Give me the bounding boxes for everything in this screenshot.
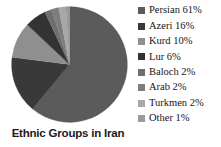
legend-item[interactable]: Other 1%: [137, 111, 221, 126]
legend-item[interactable]: Azeri 16%: [137, 18, 221, 33]
legend-item[interactable]: Kurd 10%: [137, 34, 221, 49]
legend-item-label: Azeri 16%: [149, 21, 194, 32]
legend-item-label: Other 1%: [149, 113, 190, 124]
legend-item[interactable]: Lur 6%: [137, 49, 221, 64]
legend-item-label: Persian 61%: [149, 5, 202, 16]
legend-swatch-icon: [138, 23, 145, 30]
chart-title: Ethnic Groups in Iran: [0, 127, 136, 139]
legend-swatch-icon: [138, 38, 145, 45]
legend-swatch-icon: [138, 84, 145, 91]
legend-item-label: Turkmen 2%: [149, 98, 204, 109]
pie-graphic: [11, 6, 128, 123]
pie-chart-figure: Ethnic Groups in Iran Persian 61%Azeri 1…: [0, 0, 221, 147]
pie-slices: [12, 7, 128, 123]
pie-panel: Ethnic Groups in Iran: [0, 0, 136, 147]
legend-item[interactable]: Baloch 2%: [137, 65, 221, 80]
legend-swatch-icon: [138, 115, 145, 122]
legend-swatch-icon: [138, 100, 145, 107]
legend-item-label: Baloch 2%: [149, 67, 195, 78]
legend-item-label: Lur 6%: [149, 52, 181, 63]
legend-item-label: Kurd 10%: [149, 36, 192, 47]
legend-item[interactable]: Turkmen 2%: [137, 95, 221, 110]
legend-item-label: Arab 2%: [149, 82, 187, 93]
legend-item[interactable]: Arab 2%: [137, 80, 221, 95]
legend-swatch-icon: [138, 7, 145, 14]
chart-legend: Persian 61%Azeri 16%Kurd 10%Lur 6%Baloch…: [137, 3, 221, 129]
pie-svg: [11, 6, 128, 123]
legend-swatch-icon: [138, 53, 145, 60]
legend-item[interactable]: Persian 61%: [137, 3, 221, 18]
legend-swatch-icon: [138, 69, 145, 76]
